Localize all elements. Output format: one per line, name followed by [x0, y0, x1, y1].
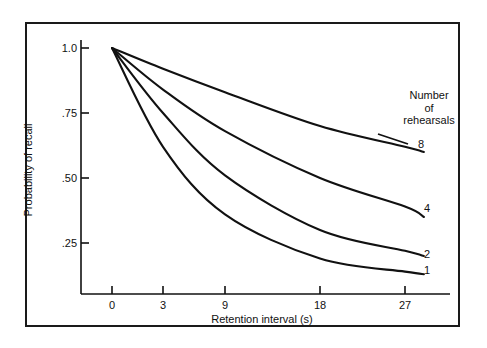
legend-title: Number of rehearsals — [384, 89, 474, 127]
curve-series-2 — [112, 48, 424, 256]
legend-title-line-1: Number — [384, 89, 474, 102]
x-tick-marks — [112, 286, 405, 294]
series-label-4: 4 — [424, 202, 430, 214]
legend-title-line-2: of — [384, 102, 474, 115]
xtick-label-27: 27 — [399, 299, 411, 311]
figure-container: 1.0 .75 .50 .25 0 3 9 18 27 Probability … — [0, 0, 487, 348]
y-tick-marks — [81, 48, 89, 243]
series-label-8: 8 — [418, 138, 424, 150]
ytick-label-0.75: .75 — [55, 107, 77, 119]
curve-series-4 — [112, 48, 424, 217]
y-axis-title: Probability of recall — [22, 124, 34, 217]
series-label-2: 2 — [424, 248, 430, 260]
xtick-label-18: 18 — [314, 299, 326, 311]
series-label-1: 1 — [424, 264, 430, 276]
x-axis-title: Retention interval (s) — [211, 313, 313, 325]
xtick-label-9: 9 — [222, 299, 228, 311]
ytick-label-1.0: 1.0 — [55, 42, 77, 54]
xtick-label-0: 0 — [109, 299, 115, 311]
xtick-label-3: 3 — [160, 299, 166, 311]
curve-series-1 — [112, 48, 424, 274]
ytick-label-0.25: .25 — [55, 237, 77, 249]
data-curves — [112, 48, 424, 274]
ytick-label-0.50: .50 — [55, 172, 77, 184]
curve-series-8 — [112, 48, 424, 152]
legend-title-line-3: rehearsals — [384, 114, 474, 127]
